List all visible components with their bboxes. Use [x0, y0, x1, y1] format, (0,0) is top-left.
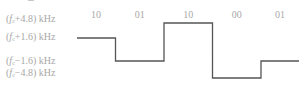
waveform-line — [77, 23, 299, 78]
fsk-waveform — [0, 0, 308, 87]
